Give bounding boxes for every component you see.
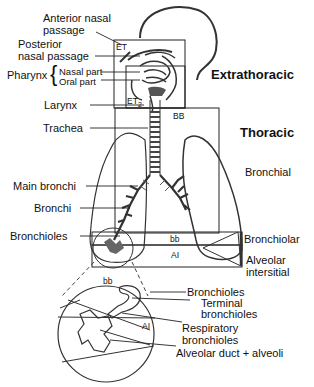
label-anterior-passage: passage [43, 24, 85, 36]
brace-icon: { [50, 63, 57, 85]
tag-ai: AI [171, 250, 179, 260]
region-bronchiolar: Bronchiolar [244, 233, 300, 245]
label-larynx: Larynx [44, 99, 77, 111]
tag-bb-upper: BB [173, 111, 184, 121]
tag-et2: ET2 [127, 96, 142, 108]
region-extrathoracic: Extrathoracic [211, 67, 294, 82]
inset-tag-ai: AI [142, 321, 150, 331]
right-lung [183, 136, 242, 259]
inset-label-terminal-bronchioles: bronchioles [201, 308, 257, 320]
tag-bb-lower: bb [170, 234, 179, 244]
label-posterior: Posterior [18, 38, 62, 50]
region-alveolar: Alveolar [246, 254, 286, 266]
region-intersitial: intersitial [246, 266, 289, 278]
label-bronchioles: Bronchioles [10, 230, 67, 242]
inset-tag-bb: bb [103, 276, 112, 286]
tag-et1: ET [116, 42, 127, 52]
label-pharynx: Pharynx [7, 69, 47, 81]
region-thoracic: Thoracic [240, 125, 294, 140]
bronchial-tree [114, 175, 190, 240]
inset-label-alveolar-duct: Alveolar duct + alveoli [176, 347, 283, 359]
label-main-bronchi: Main bronchi [13, 180, 76, 192]
bb-box [115, 108, 219, 233]
label-bronchi: Bronchi [34, 202, 71, 214]
tongue-shading [148, 87, 166, 96]
inset-alveoli [78, 310, 112, 352]
label-oral-part: Oral part [59, 77, 96, 87]
inset-label-respiratory-bronchioles: bronchioles [182, 334, 238, 346]
label-anterior-nasal: Anterior nasal [43, 12, 111, 24]
region-bronchial: Bronchial [245, 166, 291, 178]
trachea-rings [150, 112, 160, 172]
inset-label-respiratory: Respiratory [182, 322, 238, 334]
label-trachea: Trachea [43, 122, 83, 134]
head-outline [140, 7, 217, 80]
